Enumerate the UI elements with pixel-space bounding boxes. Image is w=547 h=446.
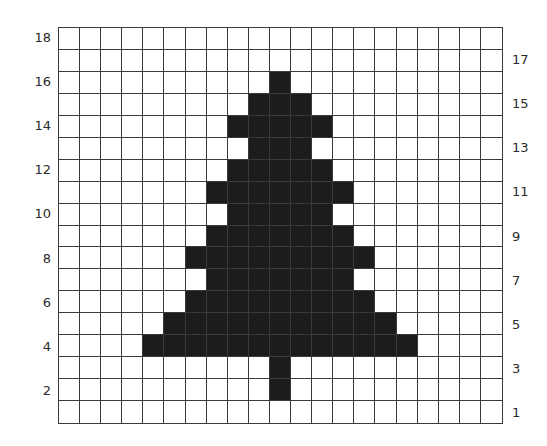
empty-cell xyxy=(418,401,439,423)
filled-cell xyxy=(375,313,396,335)
empty-cell xyxy=(333,72,354,94)
empty-cell xyxy=(186,182,207,204)
empty-cell xyxy=(375,401,396,423)
filled-cell xyxy=(291,138,312,160)
empty-cell xyxy=(354,204,375,226)
empty-cell xyxy=(122,160,143,182)
empty-cell xyxy=(375,204,396,226)
empty-cell xyxy=(312,94,333,116)
filled-cell xyxy=(312,269,333,291)
empty-cell xyxy=(418,335,439,357)
tree-chart-grid xyxy=(58,27,503,424)
empty-cell xyxy=(460,313,481,335)
empty-cell xyxy=(418,116,439,138)
empty-cell xyxy=(439,357,460,379)
filled-cell xyxy=(291,313,312,335)
filled-cell xyxy=(228,204,249,226)
empty-cell xyxy=(59,313,80,335)
filled-cell xyxy=(333,335,354,357)
empty-cell xyxy=(143,226,164,248)
empty-cell xyxy=(59,116,80,138)
empty-cell xyxy=(418,138,439,160)
empty-cell xyxy=(397,291,418,313)
empty-cell xyxy=(354,226,375,248)
empty-cell xyxy=(333,357,354,379)
row-label-right: 11 xyxy=(512,185,529,199)
empty-cell xyxy=(481,28,502,50)
empty-cell xyxy=(122,291,143,313)
filled-cell xyxy=(249,204,270,226)
empty-cell xyxy=(439,335,460,357)
empty-cell xyxy=(186,226,207,248)
empty-cell xyxy=(418,28,439,50)
empty-cell xyxy=(481,313,502,335)
empty-cell xyxy=(80,94,101,116)
empty-cell xyxy=(291,357,312,379)
filled-cell xyxy=(312,247,333,269)
empty-cell xyxy=(122,335,143,357)
empty-cell xyxy=(164,160,185,182)
empty-cell xyxy=(460,28,481,50)
row-label-left: 8 xyxy=(21,252,51,266)
filled-cell xyxy=(354,313,375,335)
row-label-left: 18 xyxy=(21,31,51,45)
empty-cell xyxy=(354,28,375,50)
empty-cell xyxy=(312,138,333,160)
empty-cell xyxy=(164,226,185,248)
empty-cell xyxy=(460,182,481,204)
empty-cell xyxy=(418,247,439,269)
empty-cell xyxy=(143,138,164,160)
filled-cell xyxy=(333,182,354,204)
empty-cell xyxy=(122,50,143,72)
filled-cell xyxy=(270,291,291,313)
empty-cell xyxy=(80,72,101,94)
row-label-left: 12 xyxy=(21,163,51,177)
empty-cell xyxy=(333,401,354,423)
empty-cell xyxy=(207,28,228,50)
row-label-right: 3 xyxy=(512,362,520,376)
empty-cell xyxy=(375,226,396,248)
empty-cell xyxy=(101,247,122,269)
empty-cell xyxy=(291,379,312,401)
empty-cell xyxy=(143,28,164,50)
empty-cell xyxy=(375,379,396,401)
empty-cell xyxy=(460,379,481,401)
empty-cell xyxy=(460,116,481,138)
empty-cell xyxy=(143,204,164,226)
filled-cell xyxy=(228,313,249,335)
filled-cell xyxy=(270,379,291,401)
empty-cell xyxy=(312,379,333,401)
empty-cell xyxy=(101,379,122,401)
filled-cell xyxy=(249,138,270,160)
empty-cell xyxy=(439,182,460,204)
empty-cell xyxy=(143,357,164,379)
empty-cell xyxy=(101,269,122,291)
filled-cell xyxy=(312,182,333,204)
empty-cell xyxy=(59,247,80,269)
filled-cell xyxy=(228,182,249,204)
filled-cell xyxy=(228,226,249,248)
empty-cell xyxy=(397,50,418,72)
filled-cell xyxy=(164,335,185,357)
empty-cell xyxy=(101,357,122,379)
empty-cell xyxy=(101,401,122,423)
filled-cell xyxy=(270,204,291,226)
filled-cell xyxy=(312,335,333,357)
empty-cell xyxy=(439,50,460,72)
filled-cell xyxy=(291,204,312,226)
empty-cell xyxy=(354,182,375,204)
row-label-left: 6 xyxy=(21,296,51,310)
empty-cell xyxy=(270,28,291,50)
empty-cell xyxy=(164,204,185,226)
empty-cell xyxy=(164,379,185,401)
empty-cell xyxy=(460,138,481,160)
empty-cell xyxy=(207,138,228,160)
filled-cell xyxy=(354,247,375,269)
empty-cell xyxy=(164,269,185,291)
empty-cell xyxy=(439,247,460,269)
empty-cell xyxy=(122,72,143,94)
empty-cell xyxy=(375,50,396,72)
empty-cell xyxy=(375,269,396,291)
empty-cell xyxy=(397,379,418,401)
empty-cell xyxy=(354,401,375,423)
